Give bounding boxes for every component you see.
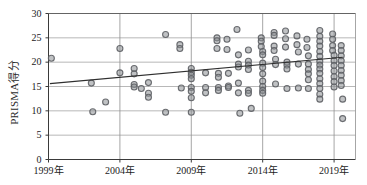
x-tick-label: 1999年	[25, 165, 73, 176]
scatter-points	[48, 27, 345, 122]
x-tick-label: 2019年	[310, 165, 358, 176]
y-tick-label: 0	[18, 155, 42, 165]
trend-line	[50, 57, 343, 83]
y-tick-label: 25	[18, 33, 42, 43]
y-tick-label: 15	[18, 82, 42, 92]
x-tick-label: 2009年	[167, 165, 215, 176]
plot-canvas	[0, 0, 367, 185]
y-tick-label: 20	[18, 57, 42, 67]
y-tick-label: 30	[18, 9, 42, 19]
y-tick-label: 5	[18, 130, 42, 140]
x-tick-label: 2004年	[96, 165, 144, 176]
prisma-score-scatter-chart: PRISMA得分 051015202530 1999年2004年2009年201…	[0, 0, 367, 185]
y-tick-label: 10	[18, 106, 42, 116]
x-tick-label: 2014年	[239, 165, 287, 176]
